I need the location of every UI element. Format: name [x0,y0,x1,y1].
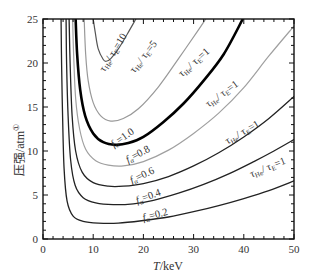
x-tick-label: 30 [188,243,200,255]
curve-labels: τHe/ τE=10τHe/ τE=5τHe/ τE=1τHe/ τE=1τHe… [97,31,288,225]
y-tick-label: 15 [27,101,39,113]
curve-label: τHe/ τE=1 [223,118,262,148]
curve-2 [76,19,243,145]
curve-label: fα=0.4 [134,186,163,207]
y-tick-label: 25 [27,13,39,25]
curve-4 [69,19,294,187]
curve-label: τHe/ τE=1 [203,78,241,111]
x-axis-label: T/keV [153,259,183,273]
x-tick-label: 50 [289,243,301,255]
x-tick-label: 0 [40,243,46,255]
curve-label: fα=0.2 [141,206,169,225]
x-tick-label: 20 [138,243,150,255]
curve-label: fα=1.0 [109,126,137,151]
y-tick-label: 10 [27,145,39,157]
curve-label: τHe/ τE=5 [127,38,160,76]
x-tick-labels: 01020304050 [40,243,300,255]
chart: τHe/ τE=10τHe/ τE=5τHe/ τE=1τHe/ τE=1τHe… [0,0,310,278]
x-tick-label: 10 [88,243,100,255]
y-tick-labels: 0510152025 [27,13,39,245]
chart-curves [61,19,294,223]
y-tick-label: 20 [27,57,39,69]
y-tick-label: 5 [33,189,39,201]
curve-label: τHe/ τE=1 [248,155,288,181]
y-axis-label: 压强/atm① [12,124,27,176]
curve-6 [61,19,294,223]
y-tick-label: 0 [33,233,39,245]
curve-label: τHe/ τE=10 [97,31,131,74]
x-tick-label: 40 [238,243,250,255]
